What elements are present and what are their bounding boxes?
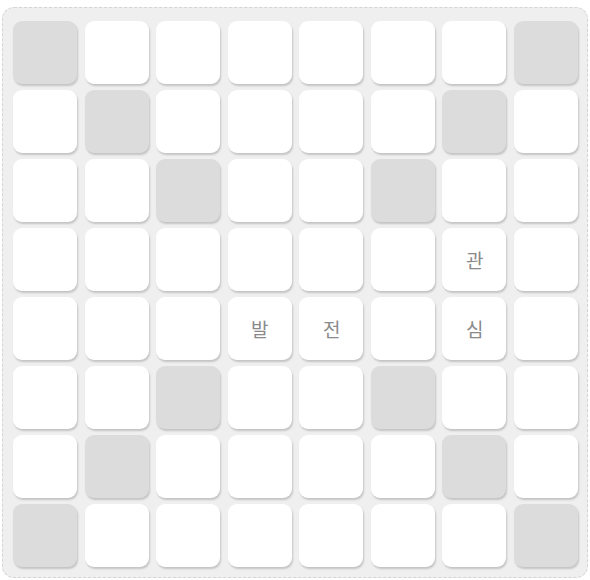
grid-cell[interactable]: [299, 435, 363, 498]
grid-cell[interactable]: [371, 435, 435, 498]
grid-cell[interactable]: [85, 504, 149, 567]
grid-cell[interactable]: [228, 90, 292, 153]
grid-cell[interactable]: 전: [299, 297, 363, 360]
grid-cell[interactable]: [13, 297, 77, 360]
grid-cell[interactable]: [85, 228, 149, 291]
shaded-cell: [85, 435, 149, 498]
grid-cell[interactable]: [299, 366, 363, 429]
shaded-cell: [13, 21, 77, 84]
shaded-cell: [13, 504, 77, 567]
grid-cell[interactable]: [228, 504, 292, 567]
word-grid: 관발전심: [13, 21, 578, 567]
grid-cell[interactable]: [156, 297, 220, 360]
shaded-cell: [156, 366, 220, 429]
shaded-cell: [85, 90, 149, 153]
grid-cell[interactable]: [514, 228, 578, 291]
grid-cell[interactable]: 발: [228, 297, 292, 360]
grid-cell[interactable]: [228, 435, 292, 498]
grid-cell[interactable]: [299, 504, 363, 567]
grid-cell[interactable]: [299, 159, 363, 222]
shaded-cell: [371, 159, 435, 222]
puzzle-board: 관발전심: [2, 7, 588, 578]
grid-cell[interactable]: [156, 90, 220, 153]
grid-cell[interactable]: [156, 21, 220, 84]
grid-cell[interactable]: [85, 159, 149, 222]
shaded-cell: [371, 366, 435, 429]
grid-cell[interactable]: [442, 159, 506, 222]
grid-cell[interactable]: [85, 21, 149, 84]
grid-cell[interactable]: 관: [442, 228, 506, 291]
grid-cell[interactable]: [299, 90, 363, 153]
shaded-cell: [514, 504, 578, 567]
grid-cell[interactable]: [85, 297, 149, 360]
grid-cell[interactable]: [13, 228, 77, 291]
grid-cell[interactable]: [13, 90, 77, 153]
grid-cell[interactable]: [156, 435, 220, 498]
shaded-cell: [514, 21, 578, 84]
grid-cell[interactable]: [371, 90, 435, 153]
grid-cell[interactable]: [85, 366, 149, 429]
shaded-cell: [442, 90, 506, 153]
grid-cell[interactable]: [514, 366, 578, 429]
grid-cell[interactable]: [299, 228, 363, 291]
grid-cell[interactable]: [228, 159, 292, 222]
grid-cell[interactable]: [13, 366, 77, 429]
grid-cell[interactable]: [514, 90, 578, 153]
grid-cell[interactable]: [371, 21, 435, 84]
grid-cell[interactable]: [442, 504, 506, 567]
grid-cell[interactable]: [371, 297, 435, 360]
grid-cell[interactable]: [13, 159, 77, 222]
grid-cell[interactable]: [156, 504, 220, 567]
grid-cell[interactable]: [228, 366, 292, 429]
grid-cell[interactable]: [514, 159, 578, 222]
grid-cell[interactable]: [442, 366, 506, 429]
grid-cell[interactable]: [514, 297, 578, 360]
grid-cell[interactable]: 심: [442, 297, 506, 360]
grid-cell[interactable]: [299, 21, 363, 84]
shaded-cell: [442, 435, 506, 498]
grid-cell[interactable]: [371, 228, 435, 291]
grid-cell[interactable]: [156, 228, 220, 291]
grid-cell[interactable]: [371, 504, 435, 567]
grid-cell[interactable]: [228, 228, 292, 291]
grid-cell[interactable]: [442, 21, 506, 84]
grid-cell[interactable]: [514, 435, 578, 498]
shaded-cell: [156, 159, 220, 222]
grid-cell[interactable]: [13, 435, 77, 498]
grid-cell[interactable]: [228, 21, 292, 84]
